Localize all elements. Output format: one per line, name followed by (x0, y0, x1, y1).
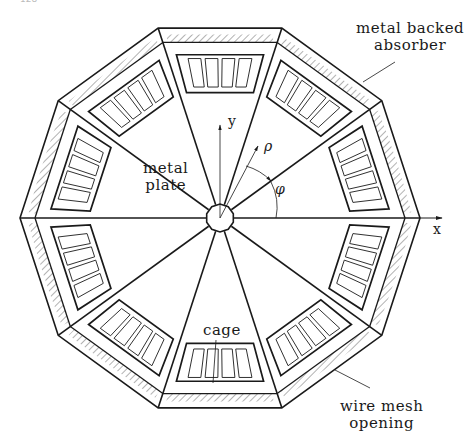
rho-label: ρ (264, 138, 272, 154)
cage-cell (128, 80, 153, 111)
phi-label: φ (275, 181, 285, 197)
cage-cell (299, 317, 326, 346)
decagonal-enclosure-diagram: 128 metal backed absorber metal plate ca… (0, 0, 473, 447)
cage-cell (276, 333, 298, 366)
label-metal-backed-absorber: metal backed absorber (356, 20, 464, 54)
label-line: plate (143, 177, 188, 194)
absorber-inner-edge (70, 42, 163, 109)
cage-cell (205, 59, 218, 87)
cage-leader (213, 340, 216, 383)
cage-cell (114, 317, 141, 346)
absorber-hatch (69, 329, 160, 398)
absorber-hatch (29, 110, 69, 213)
label-line: wire mesh (340, 398, 423, 415)
absorber-leader (363, 62, 395, 82)
phi-direction-arrow (246, 166, 271, 181)
cage-cell (100, 100, 130, 127)
label-line: metal backed (356, 20, 464, 37)
absorber-hatch (166, 394, 273, 402)
absorber-hatch (166, 35, 273, 43)
cage-cell (74, 273, 103, 297)
cage-cell (337, 138, 366, 162)
label-cage: cage (203, 322, 241, 339)
cage-cell (222, 349, 235, 377)
absorber-hatch (69, 38, 160, 107)
label-wire-mesh-opening: wire mesh opening (340, 398, 423, 432)
cage-cell (128, 325, 153, 356)
cage-cell (350, 187, 382, 203)
cage-cell (287, 325, 312, 356)
cage-frame (176, 55, 263, 93)
cage-frame (176, 343, 263, 381)
cage-cell (58, 187, 90, 203)
cage-cell (310, 100, 340, 127)
absorber-hatch (371, 110, 411, 213)
wire-mesh-leader (335, 370, 370, 388)
y-axis-label: y (228, 113, 236, 129)
cage-cell (287, 80, 312, 111)
absorber-inner-edge (70, 327, 163, 394)
label-line: absorber (356, 37, 464, 54)
radial-metal-plate (231, 226, 381, 335)
diagram-canvas (0, 0, 473, 447)
label-line: opening (340, 415, 423, 432)
absorber-hatch (371, 222, 411, 325)
absorber-hatch (29, 222, 69, 325)
absorber-inner-edge (277, 327, 370, 394)
cage-cell (276, 70, 298, 103)
cage-cell (337, 273, 366, 297)
cage-cell (142, 70, 164, 103)
absorber-hatch (281, 329, 372, 398)
label-metal-plate: metal plate (143, 160, 188, 194)
cage-cell (100, 309, 130, 336)
cage-cell (188, 349, 204, 377)
radial-metal-plate (231, 101, 381, 210)
cage-cell (236, 349, 252, 377)
cage-cell (205, 349, 218, 377)
cage-cell (74, 138, 103, 162)
radial-metal-plate (58, 226, 208, 335)
rho-arrow (220, 146, 258, 218)
cage-cell (299, 90, 326, 119)
cage-cell (310, 309, 340, 336)
cage-cell (222, 59, 235, 87)
cage-cell (350, 234, 382, 250)
cage-cell (188, 59, 204, 87)
cage-cell (236, 59, 252, 87)
x-axis-label: x (433, 221, 441, 237)
cage-cell (142, 333, 164, 366)
cage-cell (114, 90, 141, 119)
label-line: metal (143, 160, 188, 177)
cage-cell (58, 234, 90, 250)
